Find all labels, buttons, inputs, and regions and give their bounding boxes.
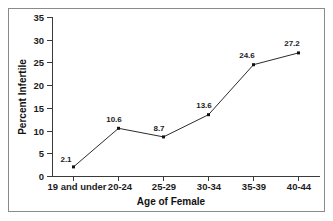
data-label-4: 24.6	[239, 51, 255, 60]
data-label-1: 10.6	[106, 115, 122, 124]
data-point-2	[162, 135, 165, 138]
y-tick-label-15: 15	[33, 103, 44, 114]
x-tick-label-0: 19 and under	[47, 181, 106, 192]
data-label-2: 8.7	[153, 124, 165, 133]
data-point-0	[72, 165, 75, 168]
data-label-3: 13.6	[196, 101, 212, 110]
data-label-0: 2.1	[60, 155, 72, 164]
x-tick-label-5: 40-44	[287, 181, 312, 192]
y-tick-label-30: 30	[33, 35, 44, 46]
y-tick-label-25: 25	[33, 57, 44, 68]
y-tick-label-5: 5	[39, 148, 45, 159]
x-axis-title: Age of Female	[137, 196, 206, 207]
y-axis-title: Percent Infertile	[17, 59, 28, 135]
data-point-4	[252, 63, 255, 66]
x-axis-tick-labels: 19 and under 20-24 25-29 30-34 35-39 40-…	[47, 181, 311, 192]
y-tick-label-20: 20	[33, 80, 44, 91]
y-tick-label-10: 10	[33, 126, 44, 137]
y-axis-tick-labels: 35 30 25 20 15 10 5 0	[33, 12, 44, 182]
axes	[53, 17, 321, 177]
x-tick-label-2: 25-29	[152, 181, 176, 192]
data-point-5	[297, 51, 300, 54]
data-point-1	[117, 127, 120, 130]
data-series-line	[74, 53, 299, 167]
data-label-5: 27.2	[284, 39, 300, 48]
y-tick-label-35: 35	[33, 12, 44, 23]
y-tick-label-0: 0	[39, 171, 44, 182]
x-tick-label-1: 20-24	[108, 181, 133, 192]
x-tick-label-3: 30-34	[197, 181, 222, 192]
data-point-3	[207, 113, 210, 116]
y-axis-ticks	[47, 18, 53, 177]
x-tick-label-4: 35-39	[242, 181, 266, 192]
data-markers	[72, 51, 300, 168]
data-value-labels: 2.1 10.6 8.7 13.6 24.6 27.2	[60, 39, 300, 164]
chart-figure: 35 30 25 20 15 10 5 0 19 and under 20-24…	[0, 0, 333, 221]
line-chart: 35 30 25 20 15 10 5 0 19 and under 20-24…	[0, 0, 333, 221]
